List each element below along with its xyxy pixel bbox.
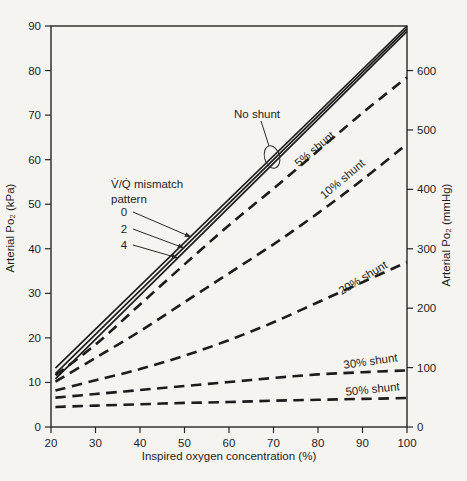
vq-mismatch-annotation: V̇/Q̇ mismatchpattern024 — [111, 178, 191, 258]
vq-mismatch-text-line-1: pattern — [111, 193, 147, 205]
vq-mismatch-text-line-0: V̇/Q̇ mismatch — [111, 178, 183, 190]
y-right-tick-label: 500 — [417, 124, 436, 136]
y-left-tick-label: 70 — [28, 109, 41, 121]
x-axis-title: Inspired oxygen concentration (%) — [142, 450, 317, 462]
x-tick-label: 90 — [356, 437, 369, 449]
no-shunt-leader-line — [261, 121, 269, 146]
figure-canvas: 2030405060708090100010203040506070809001… — [0, 0, 467, 481]
vq-pattern-arrow-0 — [133, 212, 191, 237]
x-tick-label: 50 — [178, 437, 191, 449]
x-tick-label: 40 — [134, 437, 147, 449]
series-vq-pattern-0 — [55, 26, 407, 368]
shunt-label-4: 50% shunt — [345, 380, 401, 398]
y-right-tick-label: 200 — [417, 302, 436, 314]
vq-pattern-number-0: 0 — [121, 206, 127, 218]
y-left-tick-label: 10 — [28, 376, 41, 388]
shunt-label-3: 30% shunt — [343, 351, 399, 371]
y-right-tick-label: 400 — [417, 183, 436, 195]
y-left-tick-label: 50 — [28, 198, 41, 210]
y-left-tick-label: 0 — [35, 421, 41, 433]
y-left-tick-label: 90 — [28, 20, 41, 32]
vq-pattern-number-4: 4 — [121, 239, 128, 251]
series-shunt-50 — [55, 398, 407, 407]
x-tick-label: 20 — [45, 437, 58, 449]
series-vq-pattern-4 — [55, 31, 407, 379]
x-tick-label: 80 — [312, 437, 325, 449]
x-tick-label: 60 — [223, 437, 236, 449]
series-shunt-10 — [55, 144, 407, 381]
y-right-tick-label: 100 — [417, 362, 436, 374]
series-shunt-5 — [55, 77, 407, 375]
y-left-tick-label: 80 — [28, 65, 41, 77]
y-left-tick-label: 20 — [28, 332, 41, 344]
shunt-label-2: 20% shunt — [337, 258, 390, 297]
series-vq-pattern-2 — [55, 29, 407, 374]
x-tick-label: 100 — [397, 437, 416, 449]
y-right-tick-label: 600 — [417, 65, 436, 77]
vq-pattern-arrow-2 — [133, 229, 184, 248]
y-right-axis-title: Arterial Po₂ (mmHg) — [440, 183, 452, 286]
x-tick-label: 70 — [267, 437, 280, 449]
y-right-tick-label: 0 — [417, 421, 423, 433]
vq-pattern-arrow-4 — [133, 245, 178, 258]
y-left-axis-title: Arterial Po₂ (kPa) — [4, 183, 16, 272]
vq-pattern-number-2: 2 — [121, 223, 127, 235]
y-right-tick-label: 300 — [417, 243, 436, 255]
y-left-tick-label: 40 — [28, 243, 41, 255]
iso-shunt-chart: 2030405060708090100010203040506070809001… — [0, 0, 467, 481]
no-shunt-label: No shunt — [234, 108, 281, 120]
x-tick-label: 30 — [89, 437, 102, 449]
y-left-tick-label: 30 — [28, 287, 41, 299]
y-left-tick-label: 60 — [28, 154, 41, 166]
